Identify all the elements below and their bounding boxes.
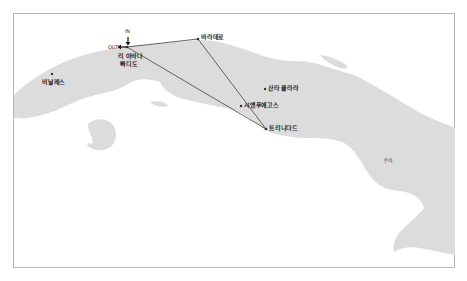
city-label-havana[interactable]: 리 아바나 [118,52,143,59]
havana-dot [126,46,129,49]
in-label: IN [125,28,130,35]
vinales-dot [51,73,53,75]
city-label-santa-clara[interactable]: 산타 클라라 [268,84,299,91]
cuba-mainland [14,40,455,255]
city-label-vinales[interactable]: 비날레스 [42,78,65,85]
city-label-havana-line2: 빠디도 [120,60,137,67]
varadero-dot [197,38,200,41]
in-arrow-icon [126,37,131,46]
city-label-cienfuegos[interactable]: 시엔푸에고스 [244,101,279,108]
cuba-map [0,0,467,281]
city-label-trinidad[interactable]: 트리니다드 [269,124,298,131]
cienfuegos-dot [240,105,242,107]
out-label: OUT [108,44,118,51]
city-label-varadero[interactable]: 바라데로 [201,33,224,40]
santa-clara-dot [264,88,266,90]
country-label: 쿠바 [383,157,393,164]
trinidad-dot [265,128,268,131]
isla-de-la-juventud [87,119,116,150]
